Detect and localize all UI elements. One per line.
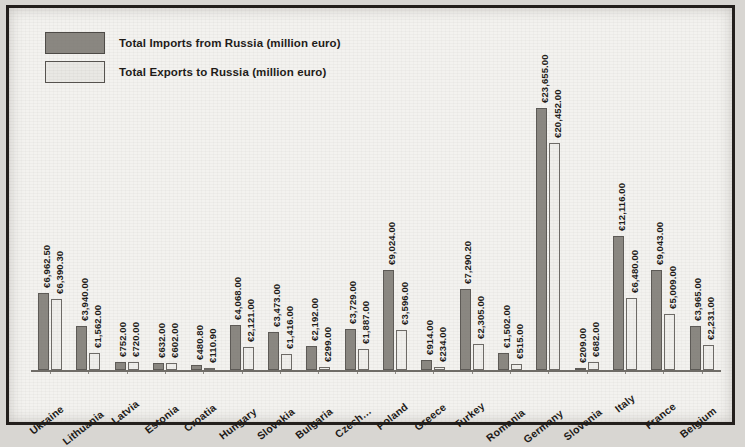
- bar-value-label: €20,452.00: [552, 90, 563, 139]
- bar-imports[interactable]: €1,502.00: [498, 104, 509, 370]
- x-axis-category: Romania: [491, 376, 529, 432]
- bar-exports[interactable]: €5,009.00: [664, 104, 675, 370]
- bar-imports[interactable]: €480.80: [191, 104, 202, 370]
- bar-value-label: €480.80: [194, 325, 205, 360]
- bar-value-label: €1,562.00: [92, 305, 103, 348]
- bar-exports[interactable]: €2,305.00: [473, 104, 484, 370]
- bar-exports[interactable]: €720.00: [128, 104, 139, 370]
- bar-exports[interactable]: €234.00: [434, 104, 445, 370]
- bar-rect: €3,940.00: [76, 326, 87, 370]
- bar-value-label: €209.00: [577, 328, 588, 363]
- bar-value-label: €1,416.00: [284, 306, 295, 349]
- bar-imports[interactable]: €7,290.20: [460, 104, 471, 370]
- bar-rect: €6,962.50: [38, 293, 49, 370]
- bar-rect: €7,290.20: [460, 289, 471, 370]
- bar-imports[interactable]: €9,043.00: [651, 104, 662, 370]
- bar-groups: €6,962.50€6,390.30€3,940.00€1,562.00€752…: [31, 104, 721, 370]
- bar-imports[interactable]: €914.00: [421, 104, 432, 370]
- bar-exports[interactable]: €20,452.00: [549, 104, 560, 370]
- bar-imports[interactable]: €3,473.00: [268, 104, 279, 370]
- bar-exports[interactable]: €1,887.00: [358, 104, 369, 370]
- bar-imports[interactable]: €12,116.00: [613, 104, 624, 370]
- x-axis-category: Estonia: [146, 376, 184, 432]
- bar-rect: €2,231.00: [703, 345, 714, 370]
- bar-rect: €1,502.00: [498, 353, 509, 370]
- bar-rect: €914.00: [421, 360, 432, 370]
- bar-exports[interactable]: €2,231.00: [703, 104, 714, 370]
- legend-label-exports: Total Exports to Russia (million euro): [119, 66, 326, 78]
- plot-area: €6,962.50€6,390.30€3,940.00€1,562.00€752…: [31, 104, 721, 372]
- bar-value-label: €6,390.30: [54, 251, 65, 294]
- bar-imports[interactable]: €4,068.00: [230, 104, 241, 370]
- bar-exports[interactable]: €1,562.00: [89, 104, 100, 370]
- bar-imports[interactable]: €3,965.00: [690, 104, 701, 370]
- bar-rect: €5,009.00: [664, 314, 675, 370]
- bar-rect: €682.00: [588, 362, 599, 370]
- x-axis-category-text: Latvia: [109, 397, 141, 426]
- bar-value-label: €3,596.00: [399, 282, 410, 325]
- bar-value-label: €2,121.00: [245, 298, 256, 341]
- bar-group: €23,655.00€20,452.00: [529, 104, 567, 370]
- bar-value-label: €5,009.00: [667, 266, 678, 309]
- bar-rect: €3,729.00: [345, 329, 356, 370]
- x-axis-category-text: Croatia: [182, 401, 219, 434]
- bar-group: €9,043.00€5,009.00: [644, 104, 682, 370]
- bar-rect: €3,596.00: [396, 330, 407, 370]
- bar-rect: €1,416.00: [281, 354, 292, 370]
- bar-value-label: €110.90: [207, 328, 218, 363]
- bar-value-label: €682.00: [590, 322, 601, 357]
- x-axis-category-text: Slovenia: [561, 406, 604, 443]
- bar-exports[interactable]: €682.00: [588, 104, 599, 370]
- bar-exports[interactable]: €2,121.00: [243, 104, 254, 370]
- bar-exports[interactable]: €602.00: [166, 104, 177, 370]
- bar-rect: €23,655.00: [536, 108, 547, 370]
- bar-group: €4,068.00€2,121.00: [223, 104, 261, 370]
- bar-group: €3,940.00€1,562.00: [69, 104, 107, 370]
- bar-imports[interactable]: €23,655.00: [536, 104, 547, 370]
- bar-value-label: €632.00: [156, 323, 167, 358]
- bar-rect: €6,480.00: [626, 298, 637, 370]
- bar-exports[interactable]: €3,596.00: [396, 104, 407, 370]
- bar-value-label: €914.00: [424, 320, 435, 355]
- bar-rect: €2,192.00: [306, 346, 317, 370]
- bar-imports[interactable]: €9,024.00: [383, 104, 394, 370]
- bar-rect: €2,305.00: [473, 344, 484, 370]
- bar-imports[interactable]: €2,192.00: [306, 104, 317, 370]
- bar-exports[interactable]: €6,480.00: [626, 104, 637, 370]
- bar-group: €1,502.00€515.00: [491, 104, 529, 370]
- bar-exports[interactable]: €299.00: [319, 104, 330, 370]
- bar-rect: €6,390.30: [51, 299, 62, 370]
- bar-value-label: €602.00: [169, 323, 180, 358]
- bar-imports[interactable]: €209.00: [575, 104, 586, 370]
- bar-value-label: €3,965.00: [692, 278, 703, 321]
- bar-imports[interactable]: €632.00: [153, 104, 164, 370]
- x-axis-category-text: Estonia: [142, 402, 180, 436]
- bar-exports[interactable]: €1,416.00: [281, 104, 292, 370]
- bar-exports[interactable]: €110.90: [204, 104, 215, 370]
- bar-value-label: €234.00: [437, 327, 448, 362]
- x-axis-category-text: Ukraine: [27, 403, 66, 437]
- x-axis-category-text: Belgium: [677, 404, 718, 440]
- bar-imports[interactable]: €3,940.00: [76, 104, 87, 370]
- legend-swatch-exports: [45, 61, 105, 83]
- bar-value-label: €12,116.00: [616, 183, 627, 231]
- x-axis-category-text: Greece: [412, 401, 448, 433]
- bar-imports[interactable]: €3,729.00: [345, 104, 356, 370]
- bar-rect: €632.00: [153, 363, 164, 370]
- bar-exports[interactable]: €6,390.30: [51, 104, 62, 370]
- bar-rect: €2,121.00: [243, 347, 254, 371]
- bar-value-label: €720.00: [130, 322, 141, 357]
- bar-group: €480.80€110.90: [184, 104, 222, 370]
- x-axis-category: Greece: [414, 376, 452, 432]
- bar-group: €3,729.00€1,887.00: [338, 104, 376, 370]
- bar-rect: €3,473.00: [268, 332, 279, 370]
- bar-exports[interactable]: €515.00: [511, 104, 522, 370]
- bar-imports[interactable]: €6,962.50: [38, 104, 49, 370]
- bar-value-label: €4,068.00: [232, 277, 243, 320]
- bar-imports[interactable]: €752.00: [115, 104, 126, 370]
- legend-swatch-imports: [45, 32, 105, 54]
- bar-rect: €9,024.00: [383, 270, 394, 370]
- bar-rect: €4,068.00: [230, 325, 241, 370]
- x-axis-category: Czech…: [338, 376, 376, 432]
- x-axis-category-text: Bulgaria: [293, 405, 335, 441]
